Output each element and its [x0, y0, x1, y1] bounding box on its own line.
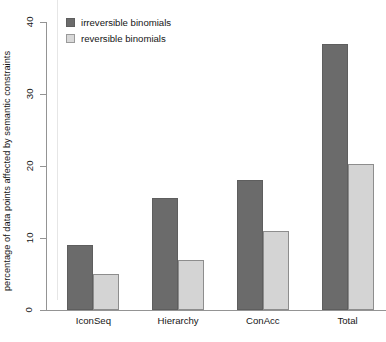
x-axis-tick-label: Total — [298, 315, 386, 329]
bar — [178, 260, 204, 310]
bar-group — [67, 22, 119, 310]
legend-item: irreversible binomials — [66, 16, 171, 29]
y-axis-tick-label: 0 — [22, 297, 36, 323]
y-axis-tick — [40, 166, 46, 167]
y-axis-tick-label: 40 — [22, 9, 36, 35]
bar — [93, 274, 119, 310]
bar — [322, 44, 348, 310]
y-axis-title: percentage of data points affected by se… — [0, 0, 14, 342]
bar-chart: percentage of data points affected by se… — [0, 0, 386, 342]
plot-area — [47, 22, 386, 310]
legend-item-label: irreversible binomials — [81, 18, 171, 28]
chart-legend: irreversible binomialsreversible binomia… — [66, 16, 171, 45]
bar — [67, 245, 93, 310]
bar — [237, 180, 263, 310]
y-axis-tick — [40, 94, 46, 95]
bar-group — [237, 22, 289, 310]
x-axis-line — [46, 310, 386, 311]
dark-swatch-icon — [66, 18, 75, 27]
light-swatch-icon — [66, 34, 75, 43]
legend-item-label: reversible binomials — [81, 34, 166, 44]
legend-item: reversible binomials — [66, 32, 171, 45]
y-axis-tick-label: 10 — [22, 225, 36, 251]
bar — [348, 164, 374, 310]
y-axis-tick-label: 20 — [22, 153, 36, 179]
bar-group — [322, 22, 374, 310]
bar-group — [152, 22, 204, 310]
y-axis-tick — [40, 238, 46, 239]
y-axis-tick-label: 30 — [22, 81, 36, 107]
bar — [263, 231, 289, 310]
bar — [152, 198, 178, 310]
y-axis-tick — [40, 22, 46, 23]
